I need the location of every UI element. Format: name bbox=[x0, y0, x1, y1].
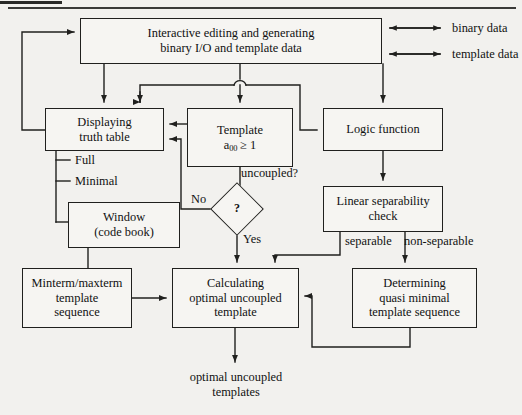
label-full: Full bbox=[75, 153, 95, 168]
node-determining-line1: Determining bbox=[356, 276, 473, 291]
edge-separable-to-calculating bbox=[275, 232, 340, 262]
node-window-code-book[interactable]: Window (code book) bbox=[68, 202, 180, 248]
label-output-line1: optimal uncoupled bbox=[175, 370, 297, 385]
label-non-separable: non-separable bbox=[404, 234, 474, 249]
label-separable: separable bbox=[345, 234, 392, 249]
node-linear-separability-check[interactable]: Linear separability check bbox=[323, 186, 443, 232]
node-minterm-maxterm-template-sequence[interactable]: Minterm/maxterm template sequence bbox=[22, 268, 132, 328]
node-linsep-line2: check bbox=[327, 209, 439, 224]
node-calculating-optimal-uncoupled-template[interactable]: Calculating optimal uncoupled template bbox=[172, 268, 299, 328]
node-interactive-editing[interactable]: Interactive editing and generating binar… bbox=[80, 18, 382, 64]
label-uncoupled-question: uncoupled? bbox=[241, 166, 298, 181]
label-output-line2: templates bbox=[175, 385, 297, 400]
node-displaying-line1: Displaying bbox=[49, 115, 160, 130]
label-template-data: template data bbox=[452, 47, 518, 62]
node-calculating-line1: Calculating bbox=[176, 276, 295, 291]
node-minterm-line2: template bbox=[26, 291, 128, 306]
label-minimal: Minimal bbox=[75, 174, 118, 189]
label-output-optimal-uncoupled-templates: optimal uncoupled templates bbox=[175, 370, 297, 400]
node-template-condition: a00 ≥ 1 bbox=[191, 138, 289, 153]
node-template[interactable]: Template a00 ≥ 1 bbox=[187, 108, 293, 167]
node-template-line1: Template bbox=[191, 123, 289, 138]
node-displaying-line2: truth table bbox=[49, 130, 160, 145]
node-window-line1: Window bbox=[72, 210, 176, 225]
label-binary-data: binary data bbox=[452, 21, 507, 36]
node-determining-quasi-minimal-template-sequence[interactable]: Determining quasi minimal template seque… bbox=[352, 268, 477, 328]
node-interactive-editing-line1: Interactive editing and generating bbox=[84, 26, 378, 41]
node-displaying-truth-table[interactable]: Displaying truth table bbox=[45, 108, 164, 151]
node-logic-function[interactable]: Logic function bbox=[323, 108, 443, 151]
diagram-canvas: Interactive editing and generating binar… bbox=[0, 0, 522, 415]
node-minterm-line3: sequence bbox=[26, 305, 128, 320]
node-determining-line2: quasi minimal bbox=[356, 291, 473, 306]
node-calculating-line2: optimal uncoupled bbox=[176, 291, 295, 306]
node-interactive-editing-line2: binary I/O and template data bbox=[84, 41, 378, 56]
node-window-line2: (code book) bbox=[72, 225, 176, 240]
node-minterm-line1: Minterm/maxterm bbox=[26, 276, 128, 291]
label-no: No bbox=[191, 192, 206, 207]
edge-interactive-to-template bbox=[234, 64, 246, 102]
node-calculating-line3: template bbox=[176, 305, 295, 320]
node-decision-question-mark: ? bbox=[218, 201, 256, 216]
label-yes: Yes bbox=[243, 232, 261, 247]
node-logic-function-label: Logic function bbox=[327, 122, 439, 137]
node-linsep-line1: Linear separability bbox=[327, 194, 439, 209]
node-determining-line3: template sequence bbox=[356, 305, 473, 320]
